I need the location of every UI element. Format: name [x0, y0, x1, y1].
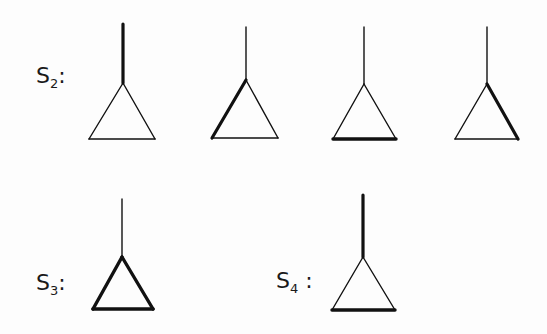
figure-s4-bold-stem-base — [332, 195, 395, 310]
graph-figures — [0, 0, 547, 334]
diagram-canvas: S2: S3: S4 : — [0, 0, 547, 334]
figure-s2-bold-left — [212, 27, 278, 138]
figure-s2-bold-stem — [89, 24, 155, 139]
figure-s2-bold-base — [333, 27, 396, 139]
figure-s3-bold-triangle — [93, 199, 153, 309]
figure-s2-bold-right — [455, 27, 518, 139]
